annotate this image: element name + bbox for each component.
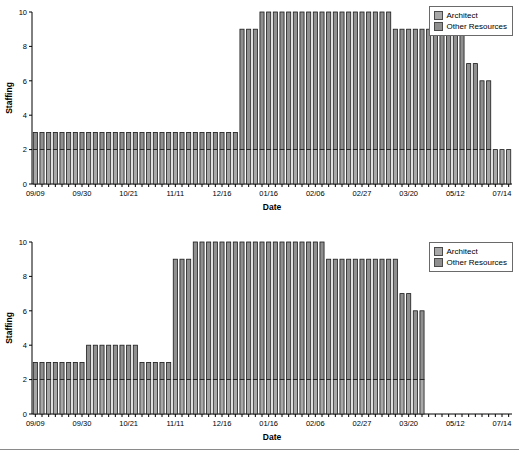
bar-segment-other-resources — [347, 12, 351, 150]
bar-segment-other-resources — [127, 345, 131, 379]
bar-segment-architect — [413, 380, 417, 414]
bar-segment-architect — [500, 150, 504, 184]
bar-segment-architect — [213, 150, 217, 184]
figure-page: 0246810Staffing09/0909/3010/2111/1112/16… — [0, 0, 519, 454]
bar-segment-other-resources — [480, 81, 484, 150]
bar-segment-other-resources — [327, 259, 331, 379]
bar-segment-other-resources — [207, 132, 211, 149]
bar-segment-architect — [267, 150, 271, 184]
bar-segment-other-resources — [167, 362, 171, 379]
bar-segment-architect — [320, 150, 324, 184]
bar-segment-other-resources — [140, 362, 144, 379]
bar-segment-architect — [347, 150, 351, 184]
bar-segment-architect — [133, 150, 137, 184]
bar-segment-architect — [33, 150, 37, 184]
bar-segment-other-resources — [440, 29, 444, 149]
bar-segment-architect — [233, 380, 237, 414]
bar-segment-other-resources — [120, 345, 124, 379]
legend-item-other-resources: Other Resources — [434, 257, 507, 268]
bar-segment-other-resources — [360, 12, 364, 150]
bar-segment-architect — [427, 150, 431, 184]
bar-segment-architect — [207, 150, 211, 184]
bar-segment-architect — [180, 380, 184, 414]
bar-segment-architect — [340, 150, 344, 184]
bar-segment-architect — [493, 150, 497, 184]
bar-segment-architect — [333, 380, 337, 414]
bar-segment-other-resources — [300, 242, 304, 380]
bar-segment-other-resources — [67, 132, 71, 149]
bar-segment-other-resources — [80, 132, 84, 149]
x-tick-label: 02/27 — [353, 419, 372, 428]
bar-segment-other-resources — [447, 29, 451, 149]
bar-segment-architect — [187, 380, 191, 414]
x-tick-label: 11/11 — [167, 189, 185, 198]
bar-segment-architect — [40, 380, 44, 414]
bar-segment-architect — [80, 150, 84, 184]
bar-segment-other-resources — [413, 311, 417, 380]
legend-swatch-other — [434, 22, 443, 31]
bar-segment-architect — [53, 380, 57, 414]
y-axis-title: Staffing — [4, 82, 14, 114]
bar-segment-other-resources — [160, 132, 164, 149]
footer-rule — [0, 449, 519, 450]
bar-segment-other-resources — [293, 242, 297, 380]
x-tick-label: 03/20 — [399, 419, 418, 428]
legend-label-architect: Architect — [447, 246, 478, 257]
bar-segment-other-resources — [33, 362, 37, 379]
bar-segment-other-resources — [340, 12, 344, 150]
legend-swatch-architect — [434, 247, 443, 256]
bar-segment-other-resources — [353, 259, 357, 379]
x-tick-label: 02/06 — [306, 419, 325, 428]
bar-segment-architect — [267, 380, 271, 414]
bar-segment-other-resources — [420, 311, 424, 380]
bar-segment-other-resources — [287, 242, 291, 380]
y-tick-label: 10 — [19, 238, 27, 247]
bar-segment-architect — [393, 150, 397, 184]
bar-segment-architect — [113, 150, 117, 184]
bar-segment-other-resources — [47, 132, 51, 149]
bar-segment-other-resources — [227, 242, 231, 380]
bar-segment-other-resources — [393, 259, 397, 379]
bar-segment-architect — [340, 380, 344, 414]
bar-segment-architect — [393, 380, 397, 414]
bar-segment-architect — [220, 150, 224, 184]
legend-item-architect: Architect — [434, 10, 507, 21]
bar-segment-other-resources — [180, 259, 184, 379]
bar-segment-other-resources — [87, 345, 91, 379]
bar-segment-architect — [53, 150, 57, 184]
y-tick-label: 6 — [23, 77, 27, 86]
bar-segment-architect — [107, 150, 111, 184]
bar-segment-other-resources — [60, 132, 64, 149]
bar-segment-architect — [320, 380, 324, 414]
bar-segment-architect — [407, 150, 411, 184]
bar-segment-architect — [167, 150, 171, 184]
bar-segment-other-resources — [213, 132, 217, 149]
bar-segment-other-resources — [107, 345, 111, 379]
x-tick-label: 10/21 — [119, 189, 138, 198]
y-tick-label: 2 — [23, 375, 27, 384]
x-tick-label: 09/09 — [26, 419, 45, 428]
legend-label-other-resources: Other Resources — [447, 21, 507, 32]
bar-segment-other-resources — [193, 242, 197, 380]
bar-segment-architect — [160, 150, 164, 184]
bar-segment-architect — [387, 380, 391, 414]
bar-segment-architect — [93, 150, 97, 184]
bar-segment-architect — [240, 150, 244, 184]
bar-segment-other-resources — [53, 362, 57, 379]
bar-segment-architect — [333, 150, 337, 184]
bar-segment-other-resources — [287, 12, 291, 150]
bar-segment-architect — [187, 150, 191, 184]
bar-segment-other-resources — [367, 259, 371, 379]
bar-segment-other-resources — [253, 242, 257, 380]
bar-segment-other-resources — [53, 132, 57, 149]
staffing-chart-bottom: 0246810Staffing09/0909/3010/2111/1112/16… — [0, 230, 519, 454]
bar-segment-architect — [153, 150, 157, 184]
y-tick-label: 8 — [23, 272, 27, 281]
x-tick-label: 03/20 — [399, 189, 418, 198]
bar-segment-other-resources — [433, 29, 437, 149]
bar-segment-other-resources — [267, 12, 271, 150]
x-tick-label: 09/30 — [73, 419, 92, 428]
x-tick-label: 05/12 — [446, 419, 465, 428]
x-tick-label: 02/06 — [306, 189, 325, 198]
bar-segment-architect — [133, 380, 137, 414]
